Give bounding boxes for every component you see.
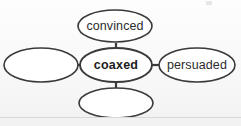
node-label-persuaded: persuaded [159, 59, 235, 72]
word-web-diagram: convinced persuaded coaxed [0, 0, 241, 126]
page-footer-band [0, 118, 241, 126]
node-label-coaxed: coaxed [80, 59, 152, 72]
node-label-convinced: convinced [78, 20, 152, 33]
node-ellipse-bottom[interactable] [79, 88, 153, 118]
node-ellipse-left[interactable] [4, 48, 78, 82]
scan-artifact [206, 1, 212, 5]
